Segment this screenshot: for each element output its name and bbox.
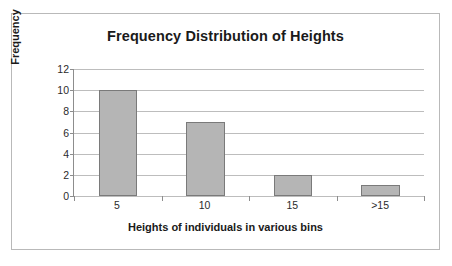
plot-area: 024681012 [73,69,424,197]
bar[interactable] [99,90,138,196]
x-tick-label: 15 [249,200,337,211]
bar[interactable] [361,185,400,196]
y-axis-title: Frequency [7,0,23,101]
chart-title: Frequency Distribution of Heights [12,28,439,44]
y-tick-label: 2 [63,170,69,181]
y-tick-label: 4 [63,148,69,159]
x-tick-label: >15 [336,200,424,211]
x-tick-label: 10 [161,200,249,211]
y-tick-label: 10 [57,85,69,96]
x-tick-label: 5 [73,200,161,211]
y-tick-label: 12 [57,64,69,75]
y-tick-label: 8 [63,106,69,117]
x-axis-title: Heights of individuals in various bins [12,221,439,233]
bar-slot [249,69,337,196]
bar-slot [162,69,250,196]
x-tick-mark [424,196,425,201]
bar[interactable] [186,122,225,196]
bar-slot [337,69,425,196]
bar[interactable] [274,175,313,196]
bar-slot [74,69,162,196]
y-tick-label: 6 [63,127,69,138]
y-tick-label: 0 [63,191,69,202]
bar-series [74,69,424,196]
x-axis-tick-labels: 51015>15 [73,200,424,211]
chart-frame: Frequency Distribution of Heights Freque… [11,13,440,250]
